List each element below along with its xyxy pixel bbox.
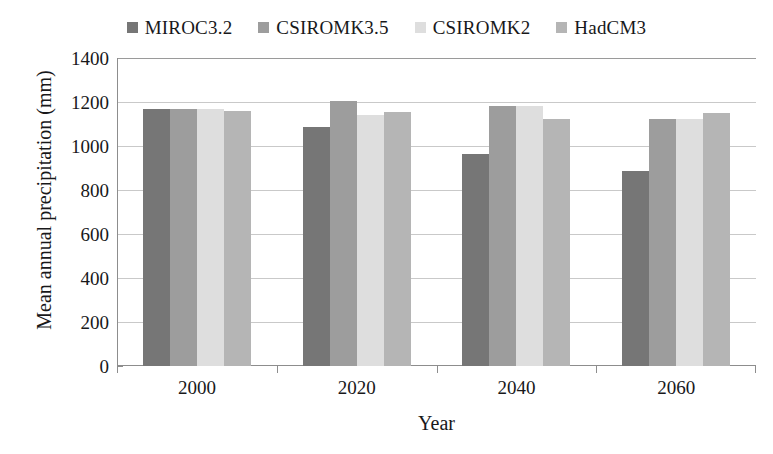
legend-label-miroc32: MIROC3.2 bbox=[145, 18, 233, 37]
bar-csiromk35-2000[interactable] bbox=[170, 109, 197, 366]
y-tick-label-400: 400 bbox=[49, 269, 109, 288]
x-axis-ticks bbox=[117, 366, 756, 374]
bar-miroc32-2060[interactable] bbox=[622, 171, 649, 366]
x-tick-label-2060: 2060 bbox=[596, 377, 756, 399]
y-axis-ticks: 1400120010008006004002000 bbox=[43, 58, 109, 366]
y-tick-label-1200: 1200 bbox=[49, 93, 109, 112]
x-tick-label-2020: 2020 bbox=[277, 377, 437, 399]
bar-csiromk2-2040[interactable] bbox=[516, 106, 543, 366]
x-tick-mark-0 bbox=[117, 366, 118, 373]
legend-swatch-csiromk2 bbox=[415, 22, 426, 33]
legend-item-csiromk35: CSIROMK3.5 bbox=[258, 18, 388, 37]
bar-groups bbox=[117, 58, 756, 366]
x-tick-label-2000: 2000 bbox=[117, 377, 277, 399]
x-tick-mark-1 bbox=[277, 366, 278, 373]
legend-swatch-hadcm3 bbox=[556, 22, 567, 33]
bar-csiromk2-2000[interactable] bbox=[197, 109, 224, 366]
legend-label-hadcm3: HadCM3 bbox=[574, 18, 646, 37]
x-tick-label-2040: 2040 bbox=[437, 377, 597, 399]
bar-group-2020 bbox=[277, 58, 437, 366]
bar-miroc32-2000[interactable] bbox=[143, 109, 170, 366]
y-tick-label-1000: 1000 bbox=[49, 137, 109, 156]
bar-miroc32-2020[interactable] bbox=[303, 127, 330, 366]
y-tick-label-800: 800 bbox=[49, 181, 109, 200]
y-tick-label-0: 0 bbox=[49, 357, 109, 376]
x-axis-title: Year bbox=[117, 412, 756, 434]
legend-item-miroc32: MIROC3.2 bbox=[127, 18, 233, 37]
bar-csiromk35-2040[interactable] bbox=[489, 106, 516, 366]
legend-swatch-miroc32 bbox=[127, 22, 138, 33]
bar-group-2000 bbox=[117, 58, 277, 366]
bar-hadcm3-2020[interactable] bbox=[384, 112, 411, 366]
legend-swatch-csiromk35 bbox=[258, 22, 269, 33]
bar-hadcm3-2060[interactable] bbox=[703, 113, 730, 366]
y-tick-label-1400: 1400 bbox=[49, 49, 109, 68]
bar-chart: MIROC3.2 CSIROMK3.5 CSIROMK2 HadCM3 Mean… bbox=[0, 0, 773, 454]
bar-group-2060 bbox=[596, 58, 756, 366]
x-tick-mark-2 bbox=[437, 366, 438, 373]
y-tick-label-600: 600 bbox=[49, 225, 109, 244]
bar-miroc32-2040[interactable] bbox=[462, 154, 489, 366]
chart-legend: MIROC3.2 CSIROMK3.5 CSIROMK2 HadCM3 bbox=[0, 18, 773, 37]
y-tick-label-200: 200 bbox=[49, 313, 109, 332]
legend-item-hadcm3: HadCM3 bbox=[556, 18, 646, 37]
x-tick-mark-3 bbox=[596, 366, 597, 373]
legend-item-csiromk2: CSIROMK2 bbox=[415, 18, 531, 37]
bar-hadcm3-2040[interactable] bbox=[543, 119, 570, 367]
bar-hadcm3-2000[interactable] bbox=[224, 111, 251, 366]
bar-csiromk35-2020[interactable] bbox=[330, 101, 357, 366]
legend-label-csiromk2: CSIROMK2 bbox=[433, 18, 531, 37]
bar-csiromk35-2060[interactable] bbox=[649, 119, 676, 367]
x-tick-mark-4 bbox=[755, 366, 756, 373]
legend-label-csiromk35: CSIROMK3.5 bbox=[276, 18, 388, 37]
bar-csiromk2-2020[interactable] bbox=[357, 115, 384, 366]
x-axis-labels: 2000202020402060 bbox=[117, 377, 756, 399]
bar-csiromk2-2060[interactable] bbox=[676, 119, 703, 367]
bar-group-2040 bbox=[437, 58, 597, 366]
